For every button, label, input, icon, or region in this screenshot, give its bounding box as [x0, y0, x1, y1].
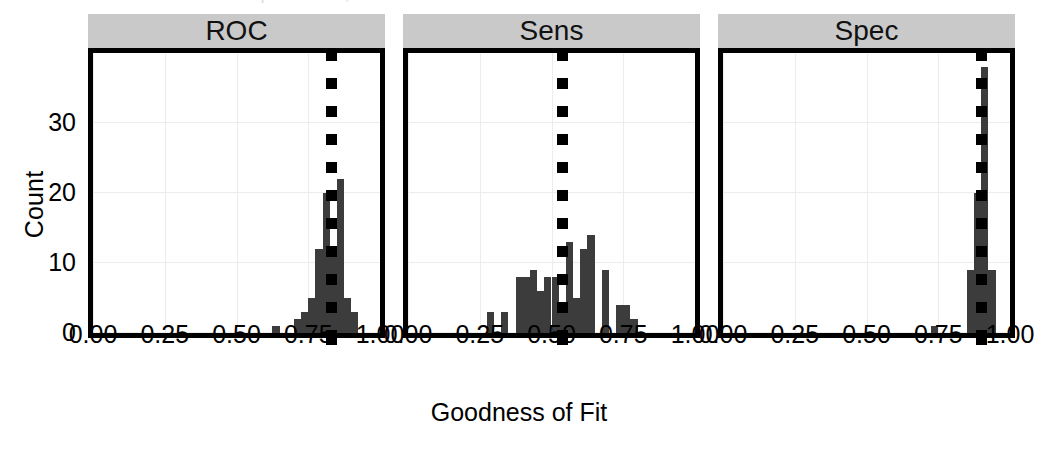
facet-strip-label-sens: Sens [403, 14, 700, 48]
x-tick-label-0.00: 0.00 [384, 320, 433, 349]
x-tick-label-0.50: 0.50 [527, 320, 576, 349]
x-tick-label-0.50: 0.50 [212, 320, 261, 349]
reference-line-dot [326, 218, 337, 229]
reference-line-dot [326, 246, 337, 257]
x-tick-label-1.00: 1.00 [986, 320, 1035, 349]
reference-line-dot [557, 190, 568, 201]
x-tick-label-0.00: 0.00 [69, 320, 118, 349]
reference-line-dot [557, 302, 568, 313]
reference-line-dot [557, 218, 568, 229]
reference-line-dot [976, 134, 987, 145]
reference-line-dot [557, 106, 568, 117]
y-tick-label-10: 10 [30, 250, 76, 275]
reference-line-dot [326, 302, 337, 313]
gridline-vertical [623, 53, 624, 333]
reference-line-dot [557, 246, 568, 257]
reference-line-dot [557, 50, 568, 61]
reference-line-dot [976, 190, 987, 201]
x-tick-label-0.25: 0.25 [770, 320, 819, 349]
y-tick-label-20: 20 [30, 180, 76, 205]
x-tick-label-0.75: 0.75 [914, 320, 963, 349]
reference-line-dot [976, 302, 987, 313]
reference-line-dot [976, 50, 987, 61]
gridline-vertical [165, 53, 166, 333]
reference-line-dot [557, 78, 568, 89]
reference-line-dot [557, 134, 568, 145]
y-tick-label-30: 30 [30, 110, 76, 135]
x-axis-tick-labels: 0.000.250.500.751.00 [718, 320, 1015, 354]
reference-line-dot [326, 274, 337, 285]
gridline-vertical [723, 53, 724, 333]
plot-inner [93, 53, 380, 333]
gridline-vertical [795, 53, 796, 333]
axis-notch [557, 336, 568, 345]
reference-line-dotted [976, 53, 987, 333]
gridline-vertical [93, 53, 94, 333]
gridline-vertical [867, 53, 868, 333]
histogram-bar [587, 235, 594, 333]
gridline-vertical [380, 53, 381, 333]
reference-line-dot [976, 274, 987, 285]
facet-strip-label-roc: ROC [88, 14, 385, 48]
facet-strip-label-spec: Spec [718, 14, 1015, 48]
plot-inner [723, 53, 1010, 333]
gridline-vertical [480, 53, 481, 333]
facet-panel-spec: Spec0.000.250.500.751.00 [718, 14, 1015, 338]
axis-notch [326, 336, 337, 345]
reference-line-dot [557, 162, 568, 173]
x-tick-label-0.25: 0.25 [455, 320, 504, 349]
x-axis-tick-labels: 0.000.250.500.751.00 [88, 320, 385, 354]
plot-area-spec [718, 48, 1015, 338]
reference-line-dot [326, 134, 337, 145]
reference-line-dot [976, 162, 987, 173]
histogram-bar [337, 179, 344, 333]
reference-line-dot [976, 106, 987, 117]
gridline-vertical [695, 53, 696, 333]
plot-area-roc [88, 48, 385, 338]
axis-notch [976, 336, 987, 345]
reference-line-dot [976, 78, 987, 89]
reference-line-dot [326, 106, 337, 117]
facet-panel-sens: Sens0.000.250.500.751.00 [403, 14, 700, 338]
gridline-vertical [408, 53, 409, 333]
x-tick-label-0.00: 0.00 [699, 320, 748, 349]
facet-panel-roc: ROC0.000.250.500.751.00 [88, 14, 385, 338]
gridline-vertical [1010, 53, 1011, 333]
reference-line-dot [326, 162, 337, 173]
x-tick-label-0.25: 0.25 [140, 320, 189, 349]
reference-line-dotted [326, 53, 337, 333]
x-axis-tick-labels: 0.000.250.500.751.00 [403, 320, 700, 354]
reference-line-dot [976, 246, 987, 257]
reference-line-dot [326, 50, 337, 61]
x-axis-title: Goodness of Fit [0, 398, 1038, 427]
figure-root: Distribution of model performance, verti… [0, 0, 1038, 450]
gridline-vertical [938, 53, 939, 333]
clipped-figure-title: Distribution of model performance, verti… [120, 0, 920, 4]
plot-area-sens [403, 48, 700, 338]
reference-line-dot [557, 274, 568, 285]
gridline-vertical [308, 53, 309, 333]
reference-line-dot [326, 190, 337, 201]
reference-line-dotted [557, 53, 568, 333]
gridline-vertical [237, 53, 238, 333]
reference-line-dot [976, 218, 987, 229]
plot-inner [408, 53, 695, 333]
x-tick-label-0.50: 0.50 [842, 320, 891, 349]
reference-line-dot [326, 78, 337, 89]
x-tick-label-0.75: 0.75 [599, 320, 648, 349]
